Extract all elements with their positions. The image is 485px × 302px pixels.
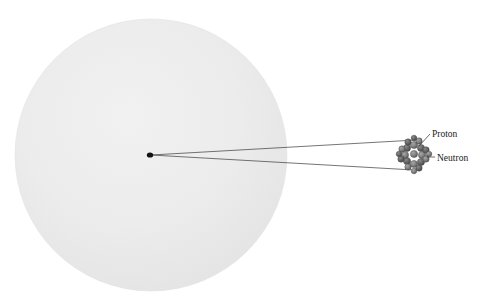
proton-label: Proton [432, 129, 458, 139]
neutron-callout: Neutron [427, 153, 468, 163]
proton-particle [410, 150, 417, 157]
neutron-particle [396, 151, 402, 157]
proton-particle [411, 168, 417, 174]
atom-diagram: Proton Neutron [0, 0, 485, 302]
diagram-canvas: Proton Neutron [0, 0, 485, 302]
nucleus-point-group [147, 152, 153, 157]
neutron-particle [405, 139, 411, 145]
proton-particle [426, 151, 432, 157]
nucleus-point [147, 152, 153, 157]
neutron-label: Neutron [437, 153, 468, 163]
proton-particle [405, 164, 411, 170]
neutron-particle [411, 135, 417, 141]
proton-callout: Proton [419, 129, 458, 146]
